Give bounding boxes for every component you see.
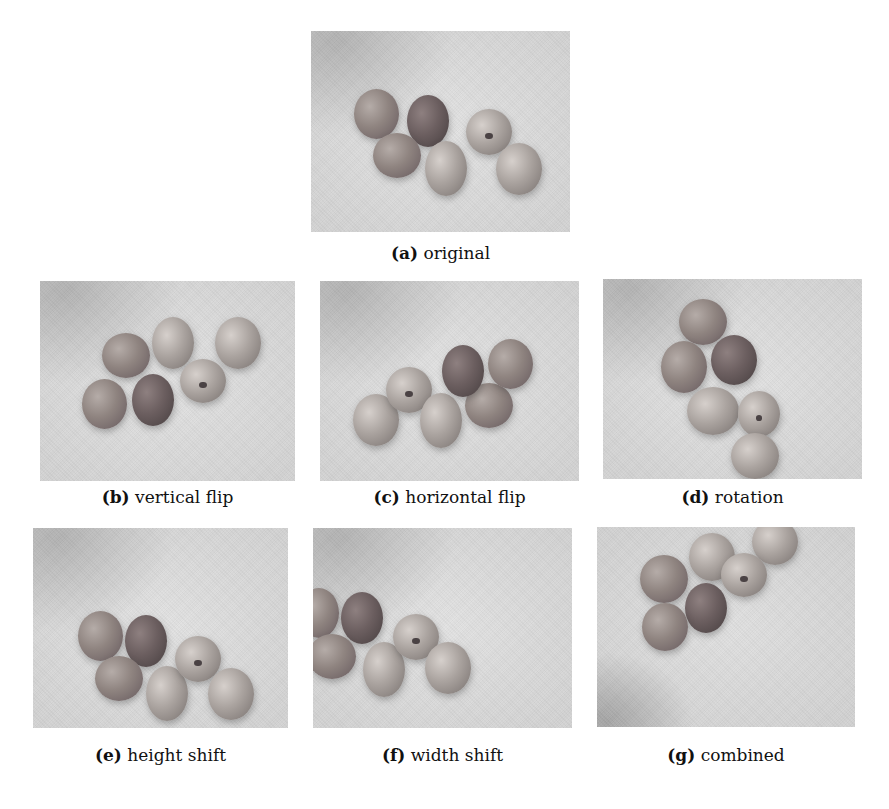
panel-label: (e) xyxy=(95,745,122,765)
image-width-shift xyxy=(313,528,572,728)
image-horizontal-flip xyxy=(320,281,579,481)
panel-caption: combined xyxy=(701,745,785,765)
panel-caption: width shift xyxy=(411,745,503,765)
panel-label: (f) xyxy=(382,745,405,765)
panel-caption: rotation xyxy=(715,487,784,507)
panel-caption: horizontal flip xyxy=(405,487,525,507)
panel-label: (c) xyxy=(373,487,399,507)
panel-label: (g) xyxy=(667,745,695,765)
panel-label: (d) xyxy=(681,487,709,507)
panel-caption: original xyxy=(423,243,490,263)
panel-caption: height shift xyxy=(127,745,226,765)
panel-label: (b) xyxy=(102,487,130,507)
image-combined xyxy=(597,527,855,727)
image-rotation xyxy=(603,279,862,479)
image-vertical-flip xyxy=(40,281,295,481)
image-height-shift xyxy=(33,528,288,728)
panel-caption: vertical flip xyxy=(135,487,233,507)
image-original xyxy=(311,31,570,232)
panel-label: (a) xyxy=(391,243,418,263)
